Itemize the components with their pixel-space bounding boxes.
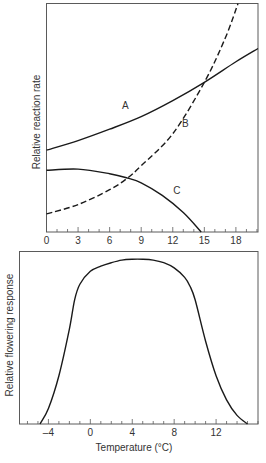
series-line-flowering-response: [40, 259, 247, 424]
x-tick-label: 18: [230, 235, 242, 246]
x-tick-label: 3: [75, 235, 81, 246]
bottom-plot-frame: [20, 252, 259, 425]
x-tick-label: 0: [44, 235, 50, 246]
reaction-rate-chart: 0369121518 ABC Relative reaction rate: [31, 4, 258, 247]
top-y-axis-label: Relative reaction rate: [31, 74, 42, 169]
x-tick-label: 12: [167, 235, 179, 246]
x-tick-label: 4: [129, 427, 135, 438]
top-series-labels: ABC: [122, 100, 189, 197]
x-tick-label: 9: [138, 235, 144, 246]
series-label-c: C: [173, 185, 180, 196]
x-tick-label: 12: [211, 427, 223, 438]
bottom-series-lines: [40, 259, 247, 424]
top-x-axis-ticks: [47, 227, 257, 232]
bottom-x-axis-ticks: [27, 419, 258, 424]
top-plot-frame: [47, 4, 259, 233]
bottom-y-axis-label: Relative flowering response: [4, 273, 15, 396]
top-x-axis-tick-labels: 0369121518: [44, 235, 242, 246]
series-line-a: [47, 49, 259, 151]
series-line-b: [47, 4, 239, 214]
x-tick-label: 0: [88, 427, 94, 438]
x-tick-label: 6: [107, 235, 113, 246]
flowering-response-chart: –404812 Relative flowering response Temp…: [4, 252, 258, 454]
x-tick-label: 15: [199, 235, 211, 246]
x-tick-label: –4: [43, 427, 55, 438]
series-line-c: [47, 169, 202, 232]
figure: 0369121518 ABC Relative reaction rate –4…: [0, 0, 266, 463]
series-label-a: A: [122, 100, 129, 111]
x-tick-label: 8: [171, 427, 177, 438]
bottom-x-axis-label: Temperature (°C): [96, 442, 173, 453]
series-label-b: B: [182, 118, 189, 129]
bottom-x-axis-tick-labels: –404812: [43, 427, 222, 438]
top-series-lines: [47, 4, 259, 233]
